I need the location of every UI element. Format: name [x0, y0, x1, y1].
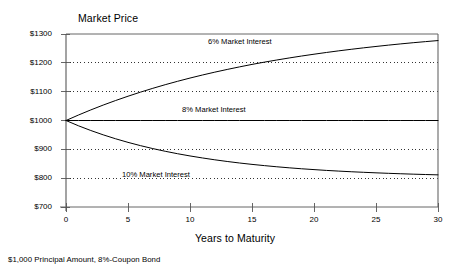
x-tick-label: 5 — [113, 216, 143, 224]
x-tick-label: 0 — [51, 216, 81, 224]
x-tick-label: 10 — [175, 216, 205, 224]
bond-price-chart-figure: Market Price $700$800$900$1000$1100$1200… — [0, 0, 470, 277]
x-tick-label: 30 — [423, 216, 453, 224]
x-axis-title: Years to Maturity — [0, 232, 470, 244]
x-tick-label: 20 — [299, 216, 329, 224]
x-tick-label: 15 — [237, 216, 267, 224]
chart-caption: $1,000 Principal Amount, 8%-Coupon Bond — [8, 255, 160, 264]
x-tick-label: 25 — [361, 216, 391, 224]
